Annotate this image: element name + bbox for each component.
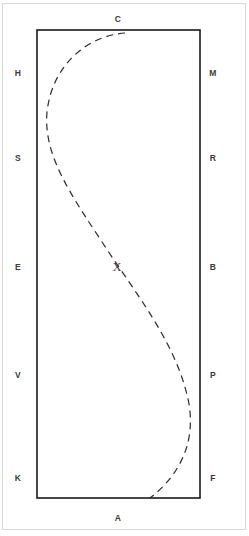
edge-label-left-s: S [15, 154, 21, 163]
center-marker: X [113, 261, 122, 273]
edge-label-top-c: C [115, 15, 121, 24]
edge-label-right-f: F [210, 474, 215, 483]
edge-label-bottom-a: A [115, 514, 121, 523]
edge-label-right-b: B [210, 263, 216, 272]
edge-label-right-p: P [210, 371, 216, 380]
edge-label-right-m: M [209, 69, 216, 78]
diagram-page: CAHSEVKMRBPFX [0, 0, 249, 536]
edge-label-left-k: K [15, 474, 21, 483]
edge-label-right-r: R [210, 154, 216, 163]
edge-label-left-e: E [15, 263, 21, 272]
edge-label-left-h: H [15, 69, 21, 78]
edge-label-left-v: V [15, 371, 21, 380]
